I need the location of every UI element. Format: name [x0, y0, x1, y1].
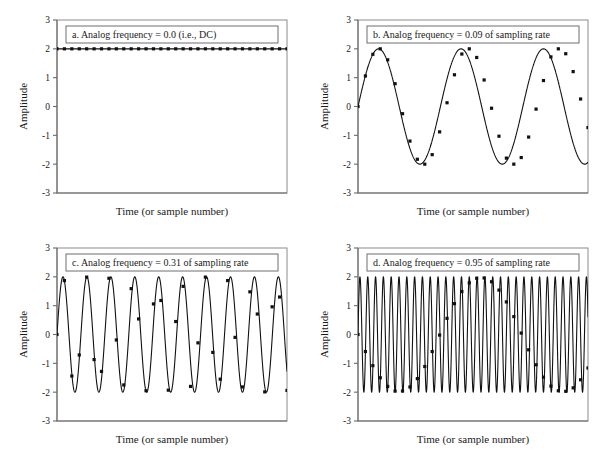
y-axis-title: Amplitude: [318, 83, 330, 130]
sample-point: [475, 56, 478, 59]
analog-waveform: [57, 277, 287, 392]
y-tick-label: 1: [346, 301, 351, 311]
sample-point: [364, 350, 367, 353]
y-tick-label: -2: [343, 388, 351, 398]
sample-point: [416, 158, 419, 161]
axis-lines: [57, 20, 287, 193]
sample-point: [219, 378, 222, 381]
sample-point: [174, 320, 177, 323]
sample-point: [379, 376, 382, 379]
axis-lines: [57, 248, 287, 421]
plot-frame: [57, 20, 287, 193]
y-tick-label: 2: [346, 272, 351, 282]
sample-point: [189, 47, 192, 50]
sample-point: [453, 302, 456, 305]
y-tick-label: 1: [346, 73, 351, 83]
sample-point: [557, 389, 560, 392]
sample-point: [278, 295, 281, 298]
sample-point: [364, 74, 367, 77]
caption-label: d. Analog frequency = 0.95 of sampling r…: [373, 257, 551, 268]
sample-point: [196, 341, 199, 344]
sample-point: [497, 135, 500, 138]
sample-point: [70, 47, 73, 50]
sample-point: [248, 47, 251, 50]
y-tick-label: -1: [343, 359, 351, 369]
sample-point: [256, 47, 259, 50]
sample-point: [497, 289, 500, 292]
sample-point: [423, 365, 426, 368]
y-tick-label: -1: [42, 359, 50, 369]
sample-point: [549, 385, 552, 388]
sample-point: [285, 389, 288, 392]
caption-label: c. Analog frequency = 0.31 of sampling r…: [72, 257, 249, 268]
sample-point: [542, 376, 545, 379]
sample-point: [490, 107, 493, 110]
sample-point: [167, 47, 170, 50]
sample-point: [159, 47, 162, 50]
sample-point: [144, 389, 147, 392]
sample-point: [460, 52, 463, 55]
sample-point: [233, 336, 236, 339]
sample-point: [219, 47, 222, 50]
sample-point: [379, 47, 382, 50]
y-tick-label: -3: [343, 416, 351, 426]
sample-point: [204, 47, 207, 50]
sample-point: [490, 280, 493, 283]
sample-point: [431, 350, 434, 353]
sample-point: [520, 156, 523, 159]
sample-point: [100, 370, 103, 373]
sample-point: [100, 47, 103, 50]
sample-point: [130, 47, 133, 50]
caption-label: a. Analog frequency = 0.0 (i.e., DC): [72, 29, 216, 41]
panel-b-svg: 3210-1-2-3AmplitudeTime (or sample numbe…: [301, 0, 602, 227]
sample-point: [271, 47, 274, 50]
sample-point: [271, 305, 274, 308]
sample-point: [278, 47, 281, 50]
y-tick-label: 0: [346, 102, 351, 112]
sample-point: [263, 390, 266, 393]
sample-point: [144, 47, 147, 50]
y-tick-label: -1: [42, 131, 50, 141]
y-tick-label: 3: [346, 243, 351, 253]
sample-point: [226, 279, 229, 282]
sample-point: [130, 287, 133, 290]
sample-point: [107, 277, 110, 280]
sample-point: [483, 276, 486, 279]
y-tick-label: 1: [45, 73, 50, 83]
sample-point: [371, 364, 374, 367]
x-axis-title: Time (or sample number): [116, 205, 229, 218]
y-tick-label: 1: [45, 301, 50, 311]
x-axis-title: Time (or sample number): [116, 433, 229, 446]
sample-point: [431, 153, 434, 156]
y-tick-label: 0: [45, 330, 50, 340]
sample-point: [572, 386, 575, 389]
sample-point: [468, 281, 471, 284]
y-tick-label: 0: [346, 330, 351, 340]
sample-point: [438, 333, 441, 336]
sample-point: [285, 47, 288, 50]
sample-point: [527, 135, 530, 138]
sample-point: [63, 47, 66, 50]
sample-point: [137, 47, 140, 50]
y-tick-label: -2: [42, 388, 50, 398]
sample-point: [137, 317, 140, 320]
sample-point: [512, 315, 515, 318]
sample-point: [152, 47, 155, 50]
sample-point: [115, 338, 118, 341]
sample-point: [520, 331, 523, 334]
panel-d-svg: 3210-1-2-3AmplitudeTime (or sample numbe…: [301, 228, 602, 455]
sample-point: [586, 366, 589, 369]
sample-point: [527, 348, 530, 351]
sample-point: [256, 312, 259, 315]
sample-point: [85, 276, 88, 279]
y-tick-label: -3: [343, 188, 351, 198]
plot-frame: [57, 248, 287, 421]
sample-point: [174, 47, 177, 50]
caption-label: b. Analog frequency = 0.09 of sampling r…: [373, 29, 551, 40]
y-tick-label: 2: [346, 44, 351, 54]
sample-point: [505, 157, 508, 160]
sample-point: [468, 47, 471, 50]
sample-point: [241, 385, 244, 388]
sample-point: [107, 47, 110, 50]
sample-point: [386, 385, 389, 388]
